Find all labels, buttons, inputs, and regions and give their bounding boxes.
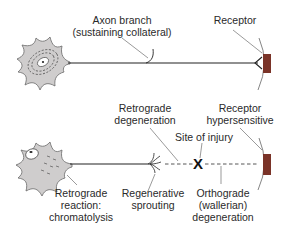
- regenerative-sprouting-label-line2: sprouting: [118, 199, 188, 211]
- axon-branch-label-line1: Axon branch: [68, 14, 176, 26]
- retrograde-reaction-label-line3: chromatolysis: [46, 211, 116, 223]
- regenerative-sprouting-label-line1: Regenerative: [118, 187, 188, 199]
- orthograde-label-line1: Orthograde: [190, 187, 256, 199]
- retrograde-degeneration-label: Retrograde degeneration: [110, 102, 180, 126]
- orthograde-label-line2: (wallerian): [190, 199, 256, 211]
- regenerative-sprouting-label: Regenerative sprouting: [118, 187, 188, 211]
- orthograde-degeneration-label: Orthograde (wallerian) degeneration: [190, 187, 256, 223]
- retrograde-degeneration-label-line2: degeneration: [110, 114, 180, 126]
- receptor-hypersensitive-label-line1: Receptor: [200, 102, 280, 114]
- retrograde-reaction-label-line2: reaction:: [46, 199, 116, 211]
- receptor-label: Receptor: [210, 14, 260, 26]
- top-receptor: [263, 54, 271, 73]
- orthograde-label-line3: degeneration: [190, 211, 256, 223]
- axon-collateral-branch: [146, 49, 153, 63]
- site-of-injury-label: Site of injury: [170, 131, 238, 143]
- regenerative-sprouts: [148, 153, 161, 173]
- injury-site-marker: X: [193, 156, 203, 172]
- bottom-receptor: [263, 154, 271, 175]
- axon-branch-label: Axon branch (sustaining collateral): [68, 14, 176, 38]
- receptor-hypersensitive-label: Receptor hypersensitive: [200, 102, 280, 126]
- retrograde-reaction-label-line1: Retrograde: [46, 187, 116, 199]
- receptor-hypersensitive-label-line2: hypersensitive: [200, 114, 280, 126]
- healthy-neuron: [17, 30, 271, 90]
- retrograde-degeneration-label-line1: Retrograde: [110, 102, 180, 114]
- axon-branch-label-line2: (sustaining collateral): [68, 26, 176, 38]
- retrograde-reaction-label: Retrograde reaction: chromatolysis: [46, 187, 116, 223]
